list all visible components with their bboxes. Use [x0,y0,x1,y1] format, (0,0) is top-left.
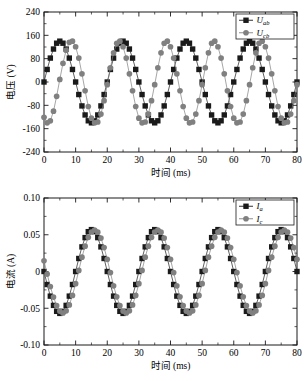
series-marker [152,82,158,88]
series-marker [101,245,107,251]
series-marker [240,294,246,300]
series-marker [190,119,196,125]
series-marker [149,234,155,240]
series-marker [285,229,291,235]
series-marker [285,119,291,125]
series-marker [237,55,242,60]
series-marker [142,254,148,260]
series-marker [98,235,104,241]
x-axis-title: 时间 (ms) [151,167,191,179]
series-marker [95,119,101,125]
series-marker [130,302,136,308]
series-marker [294,269,299,274]
y-tick-label: 160 [26,31,41,41]
series-marker [146,111,152,117]
series-marker [143,103,148,108]
series-marker [47,284,53,290]
series-marker [272,243,278,249]
series-marker [47,118,53,124]
series-marker [237,283,243,289]
series-marker [76,268,82,274]
x-tick-label: 10 [71,155,81,165]
series-marker [95,229,101,235]
series-marker [196,293,202,299]
series-marker [221,71,227,77]
series-marker [199,82,205,88]
series-marker [60,60,66,66]
series-marker [139,92,144,97]
series-marker [111,50,117,56]
y-tick-label: 0.05 [23,230,40,240]
series-marker [206,50,212,56]
voltage-chart-panel: 01020304050607080-240-160-80080160240时间 … [0,0,307,190]
series-marker [202,65,208,71]
y-axis-title: 电流 (A) [5,254,17,290]
series-marker [234,67,239,72]
y-tick-label: -80 [27,101,40,111]
series-marker [165,92,170,97]
series-marker [165,245,171,251]
series-marker [196,67,201,72]
series-marker [70,38,76,44]
series-marker [146,243,152,249]
series-marker [63,308,69,314]
series-marker [41,258,47,264]
x-tick-label: 50 [197,155,207,165]
series-marker [275,104,281,110]
series-marker [222,112,227,117]
legend-label-subscript: cb [263,32,270,39]
series-marker [237,119,243,125]
series-marker [263,44,269,50]
series-marker [228,104,234,110]
series-marker [136,79,141,84]
y-tick-label: 80 [31,54,41,64]
series-marker [142,119,148,125]
series-marker [203,92,208,97]
series-marker [228,245,234,251]
series-marker [193,55,198,60]
x-tick-label: 50 [197,348,207,358]
series-marker [76,92,81,97]
series-marker [177,88,183,94]
series-marker [294,82,300,88]
series-marker [225,88,231,94]
series-marker [168,44,174,50]
series-marker [127,71,133,77]
series-marker [149,98,155,104]
x-tick-label: 30 [134,348,144,358]
y-tick-label: -240 [23,147,41,157]
series-marker [183,115,189,121]
series-marker [231,79,236,84]
series-marker [177,46,182,51]
series-marker [48,55,53,60]
x-tick-label: 0 [42,155,47,165]
series-marker [161,235,167,241]
series-marker [231,257,237,263]
series-marker [190,308,196,314]
series-marker [133,293,139,299]
series-marker [111,283,117,289]
series-marker [127,46,132,51]
voltage-plot-svg: 01020304050607080-240-160-80080160240时间 … [0,0,307,190]
x-tick-label: 40 [166,155,176,165]
series-marker [41,79,46,84]
series-marker [136,115,142,121]
series-marker [111,55,116,60]
x-tick-label: 80 [292,348,302,358]
series-marker [73,281,79,287]
series-marker [272,88,278,94]
series-marker [79,71,85,77]
series-marker [263,79,268,84]
series-marker [180,303,186,309]
y-tick-label: 0 [35,267,40,277]
x-tick-label: 30 [134,155,144,165]
current-plot-svg: 01020304050607080-0.10-0.0500.050.10时间 (… [0,190,307,381]
series-marker [171,55,177,61]
x-tick-label: 10 [71,348,81,358]
series-marker [193,111,199,117]
y-tick-label: -0.05 [20,304,40,314]
x-tick-label: 80 [292,155,302,165]
series-marker [256,302,262,308]
series-marker [82,88,88,94]
series-marker [82,243,88,249]
